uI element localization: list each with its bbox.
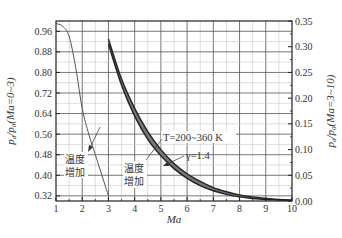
x-tick-label: 2: [80, 203, 85, 214]
x-axis-title: Ma: [166, 213, 182, 225]
svg-text:T=200~360 K: T=200~360 K: [163, 132, 223, 143]
svg-text:温度: 温度: [124, 162, 144, 174]
svg-text:温度: 温度: [65, 153, 85, 165]
x-tick-label: 8: [237, 203, 242, 214]
x-tick-label: 1: [54, 203, 59, 214]
y-axis-title-right: pd/p0(Ma=3~10): [324, 74, 338, 148]
chart: 123456789100.960.880.800.720.640.560.480…: [0, 0, 342, 238]
y-right-tick-label: 0.30: [295, 41, 313, 52]
y-right-tick-label: 0.15: [295, 118, 313, 129]
tick-labels: 123456789100.960.880.800.720.640.560.480…: [35, 16, 313, 215]
y-left-tick-label: 0.96: [35, 26, 53, 37]
grid: [56, 21, 292, 201]
y-right-tick-label: 0.00: [295, 196, 313, 207]
x-tick-label: 4: [132, 203, 137, 214]
y-right-tick-label: 0.10: [295, 144, 313, 155]
y-left-tick-label: 0.32: [35, 190, 53, 201]
y-left-tick-label: 0.48: [35, 149, 53, 160]
x-tick-label: 3: [106, 203, 111, 214]
y-left-tick-label: 0.72: [35, 88, 53, 99]
y-right-tick-label: 0.05: [295, 170, 313, 181]
y-left-tick-label: 0.80: [35, 67, 53, 78]
y-right-tick-label: 0.25: [295, 67, 313, 78]
x-tick-label: 7: [211, 203, 216, 214]
annotation-temperature-increase-right: 温度 增加: [123, 161, 147, 188]
y-left-tick-label: 0.64: [35, 108, 53, 119]
y-axis-title-left: pd/p0(Ma=0~3): [4, 77, 18, 146]
y-right-tick-label: 0.35: [295, 16, 313, 27]
y-left-tick-label: 0.88: [35, 46, 53, 57]
x-tick-label: 9: [263, 203, 268, 214]
y-left-tick-label: 0.56: [35, 129, 53, 140]
x-tick-label: 5: [158, 203, 163, 214]
x-tick-label: 6: [185, 203, 190, 214]
svg-text:增加: 增加: [124, 175, 144, 187]
y-left-tick-label: 0.40: [35, 170, 53, 181]
svg-text:γ=1.4: γ=1.4: [185, 150, 210, 161]
svg-text:增加: 增加: [65, 166, 85, 178]
y-right-tick-label: 0.20: [295, 93, 313, 104]
